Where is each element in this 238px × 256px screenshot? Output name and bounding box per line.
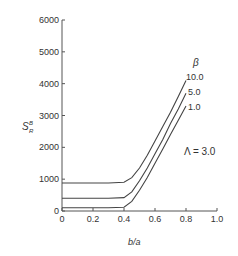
series-line-10.0 — [62, 81, 186, 184]
y-tick-label: 6000 — [39, 15, 59, 25]
chart: 010002000300040005000600000.20.40.60.81.… — [0, 0, 238, 256]
x-tick-label: 0.2 — [87, 214, 100, 224]
y-axis-label: S — [22, 121, 29, 132]
series-label: 1.0 — [188, 102, 201, 112]
series-label: 5.0 — [188, 87, 201, 97]
annotation-lambda: Λ = 3.0 — [184, 146, 216, 157]
y-tick-label: 5000 — [39, 47, 59, 57]
x-tick-label: 0.8 — [180, 214, 193, 224]
y-tick-label: 1000 — [39, 174, 59, 184]
x-tick-label: 1.0 — [211, 214, 224, 224]
series-label: 10.0 — [186, 72, 204, 82]
series-line-1.0 — [62, 106, 186, 208]
y-tick-label: 0 — [54, 206, 59, 216]
x-tick-label: 0 — [59, 214, 64, 224]
legend-title: β — [192, 57, 199, 68]
series-labels: 10.05.01.0 — [186, 72, 204, 112]
x-axis-label: b/a — [128, 237, 141, 247]
y-axis-label-sup: B — [29, 120, 33, 126]
x-tick-label: 0.6 — [149, 214, 162, 224]
axes — [62, 20, 217, 211]
y-tick-label: 3000 — [39, 111, 59, 121]
y-tick-label: 4000 — [39, 79, 59, 89]
series-lines — [62, 81, 186, 208]
y-tick-label: 2000 — [39, 142, 59, 152]
y-axis-label-sub: R — [29, 128, 34, 134]
x-tick-label: 0.4 — [118, 214, 131, 224]
